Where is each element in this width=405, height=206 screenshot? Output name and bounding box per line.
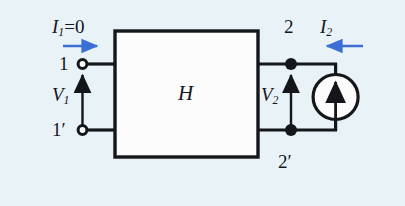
terminal-1-open-circle (78, 60, 87, 69)
terminal-1prime-open-circle (78, 126, 87, 135)
label-i2: I2 (320, 17, 332, 39)
label-v2: V2 (261, 85, 279, 107)
label-node-1: 1 (59, 54, 69, 73)
label-node-2-prime: 2′ (278, 152, 292, 171)
circuit-diagram: I1=0 I2 1 1′ 2 2′ V1 V2 H (0, 0, 405, 206)
label-node-2: 2 (284, 17, 294, 36)
label-v1: V1 (52, 85, 70, 107)
terminal-2-node-dot (285, 58, 297, 70)
label-network-block-h: H (178, 83, 193, 104)
label-node-1-prime: 1′ (52, 120, 66, 139)
label-i1-equals-zero: I1=0 (52, 17, 84, 39)
